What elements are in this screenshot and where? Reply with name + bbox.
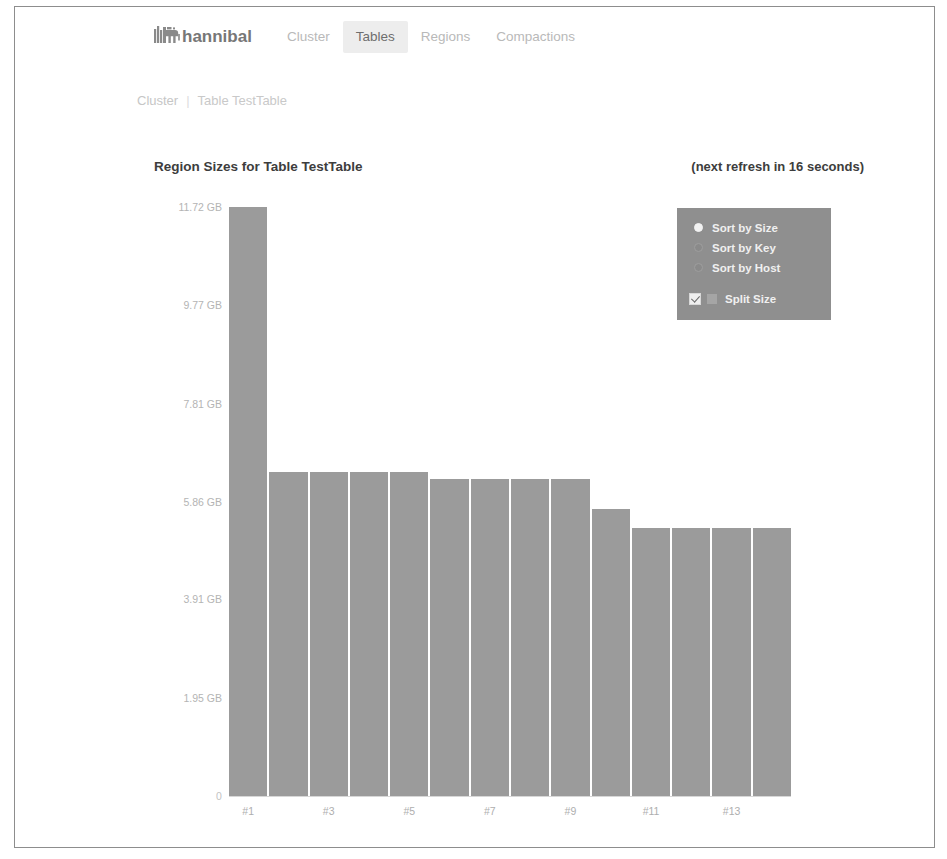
radio-label-sort-by-host: Sort by Host bbox=[712, 262, 780, 274]
radio-sort-by-size[interactable]: Sort by Size bbox=[689, 218, 819, 237]
breadcrumb-item-cluster[interactable]: Cluster bbox=[137, 93, 178, 108]
radio-icon-unselected bbox=[694, 263, 703, 272]
x-axis-tick-label: #11 bbox=[643, 805, 660, 817]
bar-region-8[interactable] bbox=[511, 479, 549, 796]
controls-divider bbox=[689, 278, 819, 289]
bar-region-9[interactable] bbox=[551, 479, 589, 796]
breadcrumb: Cluster | Table TestTable bbox=[137, 93, 287, 108]
x-axis-line bbox=[229, 796, 791, 797]
checkbox-split-size[interactable]: Split Size bbox=[689, 289, 819, 308]
radio-sort-by-host[interactable]: Sort by Host bbox=[689, 258, 819, 277]
breadcrumb-item-table: Table TestTable bbox=[198, 93, 287, 108]
split-size-color-swatch bbox=[707, 294, 717, 304]
y-axis-tick-label: 1.95 GB bbox=[183, 692, 222, 704]
y-axis-tick-label: 9.77 GB bbox=[183, 299, 222, 311]
elephant-icon bbox=[154, 26, 180, 48]
nav-item-compactions[interactable]: Compactions bbox=[483, 21, 588, 53]
refresh-countdown: (next refresh in 16 seconds) bbox=[691, 159, 864, 174]
radio-label-sort-by-key: Sort by Key bbox=[712, 242, 776, 254]
bar-region-14[interactable] bbox=[753, 528, 791, 796]
brand-logo[interactable]: hannibal bbox=[154, 26, 252, 48]
bar-region-12[interactable] bbox=[672, 528, 710, 796]
bar-region-6[interactable] bbox=[430, 479, 468, 796]
radio-label-sort-by-size: Sort by Size bbox=[712, 222, 778, 234]
nav-item-tables[interactable]: Tables bbox=[343, 21, 408, 53]
page-frame: hannibal Cluster Tables Regions Compacti… bbox=[14, 6, 935, 848]
breadcrumb-separator: | bbox=[178, 93, 197, 108]
y-axis-tick-label: 7.81 GB bbox=[183, 398, 222, 410]
checkbox-checked-icon[interactable] bbox=[689, 293, 701, 305]
bar-region-2[interactable] bbox=[269, 472, 307, 796]
x-axis-tick-label: #1 bbox=[242, 805, 254, 817]
bar-region-7[interactable] bbox=[471, 479, 509, 796]
x-axis-tick-label: #7 bbox=[484, 805, 496, 817]
y-axis-tick-label: 5.86 GB bbox=[183, 496, 222, 508]
x-axis-tick-label: #13 bbox=[723, 805, 741, 817]
bar-region-1[interactable] bbox=[229, 207, 267, 796]
bar-region-10[interactable] bbox=[592, 509, 630, 796]
top-navbar: hannibal Cluster Tables Regions Compacti… bbox=[15, 7, 934, 63]
bar-region-5[interactable] bbox=[390, 472, 428, 796]
nav-item-cluster[interactable]: Cluster bbox=[274, 21, 343, 53]
title-row: Region Sizes for Table TestTable (next r… bbox=[154, 159, 864, 174]
y-axis-tick-label: 11.72 GB bbox=[178, 201, 222, 213]
page-title: Region Sizes for Table TestTable bbox=[154, 159, 363, 174]
nav-items: Cluster Tables Regions Compactions bbox=[274, 21, 588, 53]
radio-icon-selected bbox=[694, 223, 703, 232]
brand-name: hannibal bbox=[182, 27, 252, 47]
x-axis-tick-label: #5 bbox=[403, 805, 415, 817]
x-axis-tick-label: #9 bbox=[565, 805, 577, 817]
x-axis-tick-label: #3 bbox=[323, 805, 335, 817]
y-axis-tick-zero: 0 bbox=[216, 790, 222, 802]
bar-region-4[interactable] bbox=[350, 472, 388, 796]
y-axis-tick-label: 3.91 GB bbox=[183, 593, 222, 605]
checkbox-label-split-size: Split Size bbox=[725, 293, 776, 305]
chart-controls-panel: Sort by Size Sort by Key Sort by Host Sp… bbox=[677, 208, 831, 320]
bar-region-3[interactable] bbox=[310, 472, 348, 796]
radio-icon-unselected bbox=[694, 243, 703, 252]
nav-item-regions[interactable]: Regions bbox=[408, 21, 484, 53]
radio-sort-by-key[interactable]: Sort by Key bbox=[689, 238, 819, 257]
bar-region-13[interactable] bbox=[712, 528, 750, 796]
bar-region-11[interactable] bbox=[632, 528, 670, 796]
